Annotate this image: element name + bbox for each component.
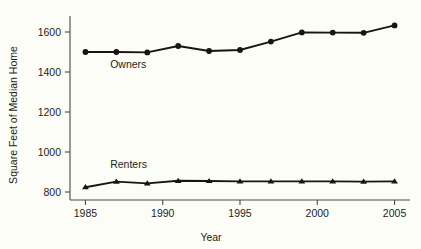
x-tick-label: 1995 [228, 207, 252, 219]
y-tick-label: 1000 [38, 146, 62, 158]
data-point-owners-1999 [299, 30, 305, 36]
x-axis-ticks: 19851990199520002005 [74, 200, 407, 219]
chart-axes [70, 16, 410, 200]
x-tick-label: 2000 [306, 207, 330, 219]
data-point-owners-1993 [206, 48, 212, 54]
y-axis-title: Square Feet of Median Home [7, 46, 19, 184]
y-tick-label: 1400 [38, 66, 62, 78]
line-chart-canvas: 8001000120014001600 19851990199520002005… [0, 0, 421, 249]
data-point-owners-2005 [392, 23, 398, 29]
x-tick-label: 1990 [151, 207, 175, 219]
data-point-owners-1987 [113, 49, 119, 55]
series-labels: OwnersRenters [110, 58, 147, 170]
data-point-owners-2001 [330, 30, 336, 36]
x-tick-label: 1985 [74, 207, 98, 219]
chart-figure: 8001000120014001600 19851990199520002005… [0, 0, 421, 249]
data-point-owners-1985 [83, 49, 89, 55]
y-tick-label: 1600 [38, 26, 62, 38]
series-label-renters: Renters [110, 158, 147, 170]
x-tick-label: 2005 [383, 207, 407, 219]
data-point-owners-1997 [268, 39, 274, 45]
x-axis-title: Year [200, 231, 222, 243]
data-point-owners-1989 [144, 50, 150, 56]
y-axis-ticks: 8001000120014001600 [38, 26, 70, 198]
data-point-owners-1991 [175, 43, 181, 49]
y-tick-label: 800 [43, 186, 61, 198]
series-label-owners: Owners [110, 58, 146, 70]
data-point-owners-2003 [361, 30, 367, 36]
data-point-owners-1995 [237, 47, 243, 53]
y-tick-label: 1200 [38, 106, 62, 118]
